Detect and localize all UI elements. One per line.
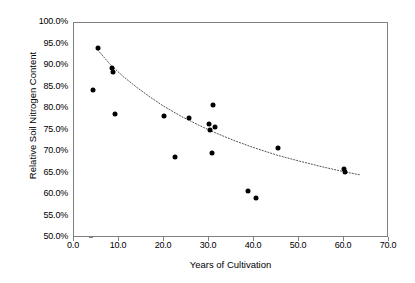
data-point	[112, 112, 117, 117]
x-tick-mark	[343, 237, 344, 241]
x-tick-mark	[253, 237, 254, 241]
data-point	[172, 155, 177, 160]
x-tick-label: 70.0	[366, 241, 410, 250]
y-tick-label: 75.0%	[22, 125, 68, 134]
x-tick-label: 60.0	[321, 241, 365, 250]
x-tick-label: 40.0	[231, 241, 275, 250]
x-tick-mark	[163, 237, 164, 241]
y-tick-label: 100.0%	[22, 17, 68, 26]
data-point	[110, 70, 115, 75]
scatter-chart: Relative Soil Nitrogen Content 50.0%55.0…	[0, 0, 415, 283]
x-tick-mark	[118, 237, 119, 241]
data-point	[210, 103, 215, 108]
y-tick-label: 95.0%	[22, 39, 68, 48]
data-point	[207, 121, 212, 126]
y-tick-label: 65.0%	[22, 168, 68, 177]
y-tick-label: 90.0%	[22, 60, 68, 69]
y-tick-mark	[89, 237, 93, 238]
y-tick-label: 60.0%	[22, 189, 68, 198]
data-point	[95, 45, 100, 50]
data-point	[342, 169, 347, 174]
y-tick-label: 50.0%	[22, 232, 68, 241]
data-point	[213, 124, 218, 129]
data-point	[254, 196, 259, 201]
data-point	[209, 151, 214, 156]
data-point	[276, 146, 281, 151]
data-point	[90, 87, 95, 92]
y-tick-label: 85.0%	[22, 82, 68, 91]
trendline	[74, 23, 389, 238]
x-tick-mark	[298, 237, 299, 241]
data-point	[245, 188, 250, 193]
plot-area	[73, 22, 388, 237]
x-tick-label: 10.0	[96, 241, 140, 250]
x-tick-label: 30.0	[186, 241, 230, 250]
data-point	[208, 127, 213, 132]
data-point	[162, 114, 167, 119]
y-tick-label: 55.0%	[22, 211, 68, 220]
y-tick-label: 70.0%	[22, 146, 68, 155]
x-tick-mark	[73, 237, 74, 241]
x-tick-mark	[208, 237, 209, 241]
x-tick-label: 50.0	[276, 241, 320, 250]
x-tick-label: 0.0	[51, 241, 95, 250]
x-tick-label: 20.0	[141, 241, 185, 250]
y-tick-label: 80.0%	[22, 103, 68, 112]
data-point	[187, 115, 192, 120]
x-tick-mark	[388, 237, 389, 241]
x-axis-tick-labels: 0.010.020.030.040.050.060.070.0	[0, 241, 415, 255]
x-axis-title: Years of Cultivation	[73, 259, 388, 270]
